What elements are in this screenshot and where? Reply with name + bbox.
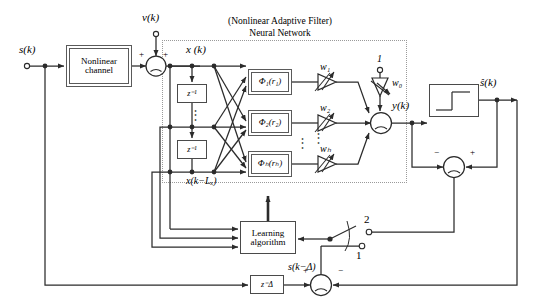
ellipsis-delay-line: ⋮ (189, 108, 202, 121)
ellipsis-weights: ⋮ (312, 131, 325, 144)
figure-canvas: (Nonlinear Adaptive Filter) Neural Netwo… (0, 0, 539, 306)
sign-noise-summer-top: + (163, 50, 168, 59)
label-bias-input: 1 (377, 54, 382, 64)
sign-reference-summer-minus: − (338, 266, 343, 275)
label-noise-signal: ν(k) (142, 12, 159, 23)
label-delayed-reference: s(k−Δ) (288, 262, 316, 272)
wiring-layer (0, 0, 539, 306)
label-decision-output: ŝ(k) (480, 77, 497, 88)
label-weight-1: w₁ (320, 62, 330, 72)
ellipsis-basis-functions: ⋮ (296, 136, 309, 149)
label-last-tap: x(k−Lₓ) (186, 176, 217, 186)
label-switch-position-1[interactable]: 1 (356, 250, 362, 261)
label-weight-2: w₂ (320, 103, 330, 113)
label-input-signal: s(k) (19, 44, 36, 55)
label-network-output: y(k) (392, 100, 409, 111)
sign-error-summer-plus: + (470, 148, 475, 157)
sign-error-summer-minus: − (434, 148, 439, 157)
label-weight-h: wₕ (320, 144, 331, 154)
label-switch-position-2[interactable]: 2 (364, 214, 370, 225)
label-bias-weight: w₀ (392, 78, 402, 88)
sign-noise-summer-left: + (139, 50, 144, 59)
sign-reference-summer-plus: + (303, 266, 308, 275)
label-channel-output: x (k) (186, 44, 206, 55)
